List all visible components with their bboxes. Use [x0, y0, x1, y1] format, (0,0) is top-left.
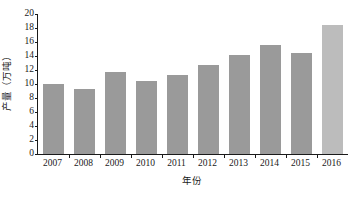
bar-slot — [38, 14, 69, 154]
bar-slot — [69, 14, 100, 154]
y-axis-title-text: 产量（万吨） — [3, 51, 13, 111]
bar-series — [38, 14, 348, 154]
bar-slot — [224, 14, 255, 154]
bar-slot — [100, 14, 131, 154]
y-axis-tick-label: 4 — [29, 121, 34, 131]
y-axis-tick-mark — [35, 84, 39, 85]
x-axis-tick-label: 2014 — [254, 159, 285, 169]
y-axis-tick-mark — [35, 98, 39, 99]
x-axis-tick-mark — [69, 154, 70, 158]
bar-2015[interactable] — [291, 53, 312, 155]
y-axis-tick-label: 12 — [25, 65, 35, 75]
x-axis-tick-label: 2007 — [37, 159, 68, 169]
x-axis-tick-mark — [193, 154, 194, 158]
x-axis-tick-mark — [317, 154, 318, 158]
bar-2007[interactable] — [43, 84, 64, 154]
bar-2013[interactable] — [229, 55, 250, 154]
y-axis-tick-label: 14 — [25, 51, 35, 61]
x-axis-tick-label: 2010 — [130, 159, 161, 169]
y-axis-tick-mark — [35, 14, 39, 15]
y-axis-tick-label: 0 — [29, 149, 34, 159]
y-axis-tick-mark — [35, 140, 39, 141]
y-axis-tick-label: 20 — [25, 9, 35, 19]
x-axis-tick-label: 2013 — [223, 159, 254, 169]
x-axis-tick-label: 2012 — [192, 159, 223, 169]
x-axis-tick-label: 2011 — [161, 159, 192, 169]
bar-2009[interactable] — [105, 72, 126, 154]
y-axis-tick-label: 2 — [29, 135, 34, 145]
y-axis-tick-label: 10 — [25, 79, 35, 89]
x-axis-title: 年份 — [37, 177, 347, 187]
x-axis-tick-mark — [255, 154, 256, 158]
y-axis-tick-label: 18 — [25, 23, 35, 33]
y-axis-tick-label: 16 — [25, 37, 35, 47]
y-axis-tick-label: 6 — [29, 107, 34, 117]
x-axis-tick-labels: 2007200820092010201120122013201420152016 — [37, 159, 347, 169]
y-axis-tick-mark — [35, 70, 39, 71]
bar-slot — [255, 14, 286, 154]
bar-slot — [131, 14, 162, 154]
y-axis-tick-labels: 02468101214161820 — [14, 14, 34, 154]
y-axis-tick-mark — [35, 154, 39, 155]
y-axis-tick-mark — [35, 28, 39, 29]
x-axis-tick-label: 2015 — [285, 159, 316, 169]
bar-chart: 产量（万吨） 02468101214161820 200720082009201… — [0, 0, 353, 200]
x-axis-tick-mark — [162, 154, 163, 158]
x-axis-tick-mark — [224, 154, 225, 158]
bar-slot — [317, 14, 348, 154]
x-axis-tick-mark — [100, 154, 101, 158]
y-axis-tick-mark — [35, 56, 39, 57]
bar-2011[interactable] — [167, 75, 188, 154]
y-axis-tick-mark — [35, 126, 39, 127]
bar-slot — [162, 14, 193, 154]
y-axis-tick-label: 8 — [29, 93, 34, 103]
bar-2008[interactable] — [74, 89, 95, 154]
bar-slot — [193, 14, 224, 154]
x-axis-tick-label: 2008 — [68, 159, 99, 169]
y-axis-tick-mark — [35, 112, 39, 113]
bar-slot — [286, 14, 317, 154]
bar-2010[interactable] — [136, 81, 157, 155]
x-axis-tick-mark — [131, 154, 132, 158]
x-axis-tick-mark — [286, 154, 287, 158]
x-axis-tick-label: 2009 — [99, 159, 130, 169]
bar-2012[interactable] — [198, 65, 219, 154]
x-axis-tick-label: 2016 — [316, 159, 347, 169]
bar-2016[interactable] — [322, 25, 343, 155]
y-axis-tick-mark — [35, 42, 39, 43]
bar-2014[interactable] — [260, 45, 281, 154]
plot-area — [37, 14, 348, 155]
